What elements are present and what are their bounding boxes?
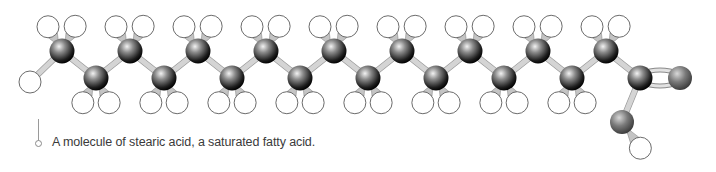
carbon-atom	[288, 66, 313, 91]
hydrogen-atom	[404, 15, 426, 37]
carbon-atom	[560, 66, 585, 91]
carbon-atom	[118, 39, 143, 64]
carbon-atom	[594, 39, 619, 64]
hydrogen-atom	[629, 137, 651, 159]
carbon-atom	[356, 66, 381, 91]
hydrogen-atom	[64, 15, 86, 37]
hydrogen-atom	[377, 16, 399, 38]
hydrogen-atom	[472, 15, 494, 37]
carbon-atom	[322, 39, 347, 64]
caption-leader-line	[38, 119, 39, 141]
carbon-atom	[50, 39, 75, 64]
hydrogen-atom	[234, 92, 256, 114]
hydrogen-atom	[200, 15, 222, 37]
carbon-atom	[152, 66, 177, 91]
caption-leader-dot	[35, 140, 42, 147]
hydrogen-atom	[370, 92, 392, 114]
hydrogen-atom	[105, 16, 127, 38]
hydrogen-atom	[276, 92, 298, 114]
carbon-atom	[492, 66, 517, 91]
hydrogen-atom	[506, 92, 528, 114]
hydrogen-atom	[140, 92, 162, 114]
carbon-atom	[628, 66, 653, 91]
hydrogen-atom	[166, 92, 188, 114]
hydrogen-atom	[98, 92, 120, 114]
hydrogen-atom	[608, 15, 630, 37]
carbon-atom	[526, 39, 551, 64]
hydrogen-atom	[72, 92, 94, 114]
hydrogen-atom	[37, 16, 59, 38]
figure-caption: A molecule of stearic acid, a saturated …	[52, 135, 315, 149]
hydrogen-atom	[540, 15, 562, 37]
carbon-atom	[84, 66, 109, 91]
hydrogen-atom	[309, 16, 331, 38]
hydrogen-atom	[302, 92, 324, 114]
hydrogen-atom	[208, 92, 230, 114]
hydrogen-atom	[241, 16, 263, 38]
carbon-atom	[424, 66, 449, 91]
hydrogen-atom	[344, 92, 366, 114]
hydrogen-atom	[574, 92, 596, 114]
oxygen-atom	[668, 66, 692, 90]
heavy-atom-layer	[50, 39, 693, 135]
hydrogen-atom	[268, 15, 290, 37]
carbon-atom	[458, 39, 483, 64]
hydrogen-atom	[438, 92, 460, 114]
hydrogen-atom	[132, 15, 154, 37]
hydrogen-atom	[513, 16, 535, 38]
oxygen-atom	[610, 110, 634, 134]
hydrogen-atom	[336, 15, 358, 37]
hydrogen-atom	[19, 71, 41, 93]
carbon-atom	[220, 66, 245, 91]
hydrogen-atom	[445, 16, 467, 38]
carbon-atom	[186, 39, 211, 64]
hydrogen-atom	[480, 92, 502, 114]
carbon-atom	[254, 39, 279, 64]
hydrogen-atom	[412, 92, 434, 114]
carbon-atom	[390, 39, 415, 64]
hydrogen-atom	[173, 16, 195, 38]
hydrogen-atom	[548, 92, 570, 114]
hydrogen-atom	[581, 16, 603, 38]
